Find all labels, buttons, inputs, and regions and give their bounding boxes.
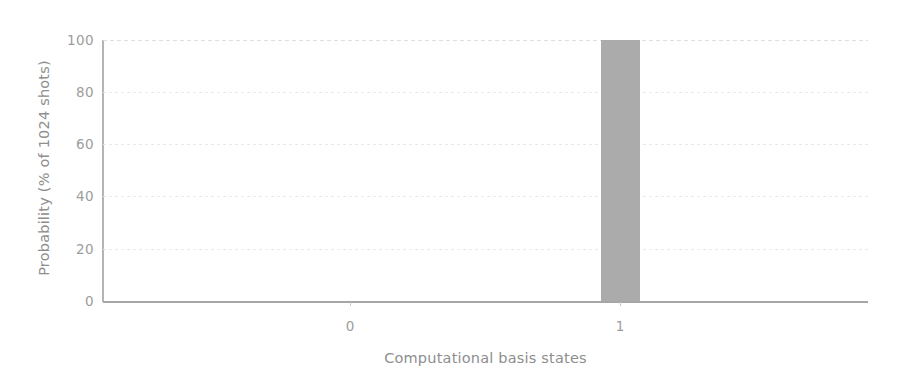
gridline-40 (103, 196, 868, 197)
gridline-60 (103, 144, 868, 145)
gridline-100 (103, 40, 868, 41)
x-tick-label-0: 0 (330, 320, 370, 334)
gridline-80 (103, 92, 868, 93)
x-tick-label-1: 1 (600, 320, 640, 334)
bar-chart-figure: Probability (% of 1024 shots) 100 80 60 … (0, 0, 899, 386)
x-tick-mark-1 (620, 302, 621, 306)
y-tick-label-20: 20 (52, 243, 94, 257)
plot-area (103, 40, 868, 301)
y-axis-title: Probability (% of 1024 shots) (36, 38, 52, 298)
gridline-20 (103, 249, 868, 250)
y-tick-label-40: 40 (52, 190, 94, 204)
x-axis-title: Computational basis states (103, 350, 868, 366)
x-tick-mark-0 (350, 302, 351, 306)
bar-state-1 (601, 40, 640, 301)
x-axis-line (103, 301, 868, 303)
y-tick-label-100: 100 (52, 34, 94, 48)
y-tick-label-80: 80 (52, 86, 94, 100)
y-tick-label-0: 0 (52, 295, 94, 309)
y-tick-label-60: 60 (52, 138, 94, 152)
